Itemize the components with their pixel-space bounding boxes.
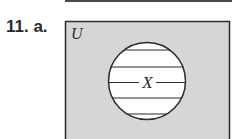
set-x-label: X: [141, 73, 153, 92]
universe-label: U: [71, 25, 84, 42]
venn-diagram: U X: [0, 0, 232, 139]
